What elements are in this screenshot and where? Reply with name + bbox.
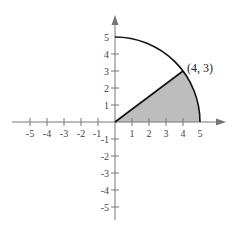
y-tick-label: -1: [101, 134, 109, 145]
x-tick-label: 4: [181, 128, 186, 139]
y-tick-label: 5: [104, 32, 109, 43]
x-tick-label: -2: [77, 128, 85, 139]
y-tick-label: 3: [104, 66, 109, 77]
y-tick-label: -2: [101, 151, 109, 162]
y-tick-label: 1: [104, 100, 109, 111]
x-axis-arrow-icon: [216, 119, 226, 126]
point-label: (4, 3): [187, 61, 213, 75]
plot-svg: -5 -4 -3 -2 -1 1 2 3 4 5 5 4 3 2 1 -1 -2…: [0, 0, 234, 234]
x-tick-label: 2: [147, 128, 152, 139]
coordinate-diagram: -5 -4 -3 -2 -1 1 2 3 4 5 5 4 3 2 1 -1 -2…: [0, 0, 234, 234]
x-tick-label: -3: [60, 128, 68, 139]
y-tick-label: -5: [101, 202, 109, 213]
y-tick-label: -4: [101, 185, 109, 196]
y-tick-label: 2: [104, 83, 109, 94]
x-tick-label: 1: [130, 128, 135, 139]
x-tick-label: -5: [26, 128, 34, 139]
x-tick-label: -4: [43, 128, 51, 139]
y-axis-arrow-icon: [112, 15, 119, 25]
y-tick-label: -3: [101, 168, 109, 179]
y-tick-label: 4: [104, 49, 109, 60]
x-tick-label: 5: [198, 128, 203, 139]
x-tick-label: 3: [164, 128, 169, 139]
